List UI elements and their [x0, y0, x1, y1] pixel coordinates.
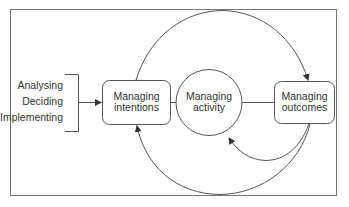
arc-intentions-to-outcomes: [136, 11, 308, 81]
input-implementing: Implementing: [0, 111, 63, 123]
node-outcomes-line2: outcomes: [274, 102, 335, 113]
input-analysing: Analysing: [17, 79, 63, 91]
node-intentions-label: Managing intentions: [102, 91, 171, 113]
node-activity-label: Managing activity: [176, 91, 242, 113]
node-activity-line2: activity: [176, 102, 242, 113]
arc-outcomes-to-intentions: [137, 124, 310, 195]
arc-outcomes-to-activity: [229, 124, 309, 161]
input-bracket: [65, 75, 79, 132]
node-intentions-line2: intentions: [102, 102, 171, 113]
node-outcomes-label: Managing outcomes: [274, 91, 335, 113]
input-deciding: Deciding: [22, 95, 63, 107]
